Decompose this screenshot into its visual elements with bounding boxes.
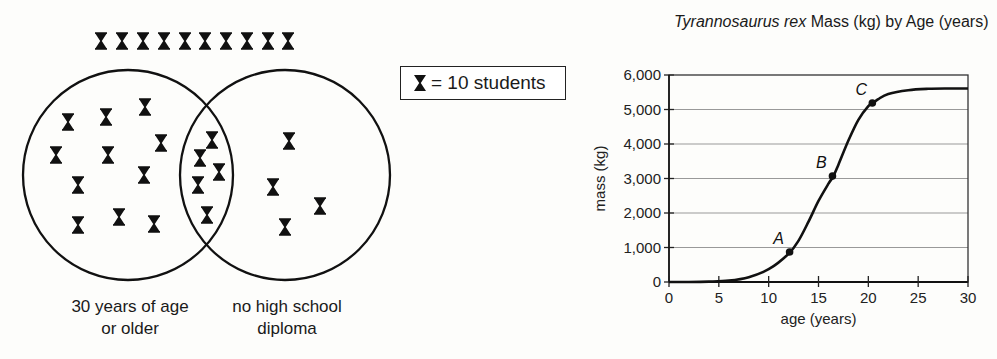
hourglass-student-icon — [192, 177, 204, 193]
legend-text: = 10 students — [431, 72, 546, 94]
hourglass-student-icon — [138, 167, 150, 183]
hourglass-student-icon — [194, 150, 206, 166]
hourglass-student-icon — [279, 219, 291, 235]
hourglass-student-icon — [62, 114, 74, 130]
y-tick-label: 6,000 — [623, 66, 661, 83]
hourglass-student-icon — [413, 74, 427, 92]
chart-title: Tyrannosaurus rex Mass (kg) by Age (year… — [674, 13, 988, 31]
label-line: diploma — [212, 318, 362, 340]
hourglass-student-icon — [282, 33, 294, 49]
hourglass-student-icon — [113, 209, 125, 225]
y-tick-label: 4,000 — [623, 135, 661, 152]
x-axis-label: age (years) — [781, 310, 857, 327]
hourglass-student-icon — [262, 33, 274, 49]
label-line: or older — [55, 318, 205, 340]
point-marker-a — [786, 248, 794, 256]
point-marker-b — [829, 172, 837, 180]
hourglass-student-icon — [148, 216, 160, 232]
set-label-30-or-older: 30 years of age or older — [55, 296, 205, 340]
hourglass-student-icon — [220, 33, 232, 49]
label-line: no high school — [212, 296, 362, 318]
hourglass-student-icon — [50, 147, 62, 163]
hourglass-student-icon — [158, 33, 170, 49]
legend-box: = 10 students — [400, 66, 566, 100]
y-tick-label: 3,000 — [623, 170, 661, 187]
hourglass-student-icon — [213, 164, 225, 180]
hourglass-student-icon — [72, 177, 84, 193]
hourglass-student-icon — [314, 198, 326, 214]
mass-curve — [669, 88, 968, 282]
hourglass-student-icon — [206, 132, 218, 148]
point-label-c: C — [856, 81, 868, 98]
hourglass-student-icon — [95, 33, 107, 49]
hourglass-student-icon — [241, 33, 253, 49]
hourglass-student-icon — [199, 33, 211, 49]
hourglass-student-icon — [100, 109, 112, 125]
y-axis-label: mass (kg) — [591, 146, 608, 212]
hourglass-student-icon — [72, 217, 84, 233]
hourglass-student-icon — [179, 33, 191, 49]
y-tick-label: 5,000 — [623, 101, 661, 118]
hourglass-student-icon — [283, 133, 295, 149]
y-tick-label: 1,000 — [623, 239, 661, 256]
x-tick-label: 30 — [960, 289, 977, 306]
hourglass-student-icon — [267, 179, 279, 195]
set-circle-no-diploma — [180, 70, 390, 280]
point-label-b: B — [816, 154, 827, 171]
x-tick-label: 0 — [665, 289, 673, 306]
hourglass-student-icon — [116, 33, 128, 49]
point-label-a: A — [772, 230, 784, 247]
label-line: 30 years of age — [55, 296, 205, 318]
chart-title-italic: Tyrannosaurus rex — [674, 13, 806, 30]
hourglass-student-icon — [137, 33, 149, 49]
x-tick-label: 10 — [760, 289, 777, 306]
x-tick-label: 15 — [810, 289, 827, 306]
x-tick-label: 25 — [910, 289, 927, 306]
y-tick-label: 0 — [653, 273, 661, 290]
x-tick-label: 5 — [715, 289, 723, 306]
chart-title-rest: Mass (kg) by Age (years) — [806, 13, 988, 30]
x-tick-label: 20 — [860, 289, 877, 306]
point-marker-c — [869, 99, 877, 107]
hourglass-student-icon — [201, 207, 213, 223]
set-circle-30-or-older — [23, 70, 233, 280]
set-label-no-diploma: no high school diploma — [212, 296, 362, 340]
hourglass-student-icon — [102, 147, 114, 163]
plot-frame — [669, 75, 968, 282]
y-tick-label: 2,000 — [623, 204, 661, 221]
hourglass-student-icon — [155, 135, 167, 151]
venn-diagram: 30 years of age or older no high school … — [0, 0, 400, 359]
hourglass-student-icon — [139, 99, 151, 115]
